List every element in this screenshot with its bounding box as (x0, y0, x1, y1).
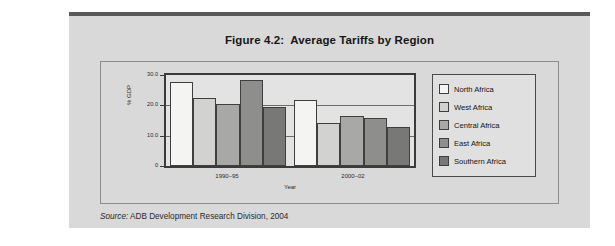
legend-item[interactable]: Central Africa (439, 116, 535, 134)
legend-label: Southern Africa (454, 157, 506, 166)
legend-item[interactable]: East Africa (439, 134, 535, 152)
y-tick-label: 30.0 (134, 71, 158, 77)
legend-swatch-icon (439, 156, 449, 166)
y-tick-label: 20.0 (134, 101, 158, 107)
y-axis-label: % GDP (126, 85, 132, 105)
x-tick-label: 1990–95 (164, 173, 290, 179)
x-tick-label: 2000–02 (290, 173, 416, 179)
plot-area (164, 73, 416, 168)
figure-page: Figure 4.2: Average Tariffs by Region % … (69, 12, 590, 228)
bar-group (166, 75, 290, 166)
bar-groups (166, 75, 414, 166)
legend-swatch-icon (439, 120, 449, 130)
legend-swatch-icon (439, 102, 449, 112)
bar (216, 104, 239, 166)
bar-chart: % GDP 010.020.030.0 1990–952000–02 Year … (100, 61, 559, 204)
x-axis-label: Year (164, 184, 416, 190)
legend-label: Central Africa (454, 121, 500, 130)
bar (317, 123, 340, 166)
figure-title: Figure 4.2: Average Tariffs by Region (69, 34, 590, 46)
bar (193, 98, 216, 166)
bar (294, 100, 317, 166)
legend-item[interactable]: West Africa (439, 98, 535, 116)
source-prefix: Source: (100, 212, 128, 221)
legend-swatch-icon (439, 138, 449, 148)
bar (240, 80, 263, 166)
source-note: Source: ADB Development Research Divisio… (100, 212, 288, 221)
y-tick-label: 0 (134, 162, 158, 168)
legend-label: North Africa (454, 85, 494, 94)
bar (364, 118, 387, 166)
bar (340, 116, 363, 166)
bar (263, 107, 286, 166)
legend-item[interactable]: Southern Africa (439, 152, 535, 170)
y-tick-label: 10.0 (134, 132, 158, 138)
legend-swatch-icon (439, 84, 449, 94)
bar (387, 127, 410, 166)
bar (170, 82, 193, 166)
legend-label: East Africa (454, 139, 490, 148)
legend-item[interactable]: North Africa (439, 80, 535, 98)
bar-group (290, 75, 414, 166)
chart-legend: North AfricaWest AfricaCentral AfricaEas… (432, 74, 536, 177)
source-text: ADB Development Research Division, 2004 (128, 212, 288, 221)
legend-label: West Africa (454, 103, 492, 112)
